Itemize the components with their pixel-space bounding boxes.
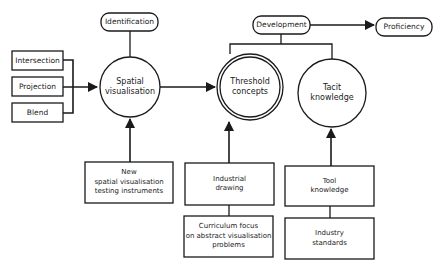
threshold-text-1: Threshold <box>230 77 269 87</box>
tacit-knowledge-label: Tacit knowledge <box>302 78 362 108</box>
development-label: Development <box>253 16 310 34</box>
projection-text: Projection <box>19 82 56 92</box>
curriculum-text-3: problems <box>212 241 245 251</box>
industry-text-2: standards <box>312 239 347 249</box>
industrial-text-2: drawing <box>215 184 243 194</box>
curriculum-text-2: on abstract visualisation <box>186 232 272 242</box>
projection-label: Projection <box>12 77 63 96</box>
intersection-text: Intersection <box>15 56 60 66</box>
tool-knowledge-label: Tool knowledge <box>285 166 374 206</box>
tacit-text-1: Tacit <box>323 83 341 93</box>
intersection-label: Intersection <box>12 51 63 70</box>
tool-text-2: knowledge <box>311 186 349 196</box>
threshold-concepts-label: Threshold concepts <box>220 72 280 102</box>
spatial-visualisation-label: Spatial visualisation <box>100 72 160 102</box>
spatial-text-2: visualisation <box>105 87 155 97</box>
identification-label: Identification <box>101 13 158 31</box>
curriculum-focus-label: Curriculum focus on abstract visualisati… <box>184 216 273 257</box>
threshold-text-2: concepts <box>232 87 268 97</box>
proficiency-label: Proficiency <box>376 18 432 36</box>
proficiency-text: Proficiency <box>384 22 425 32</box>
blend-text: Blend <box>27 108 48 118</box>
new-testing-text-2: spatial visualisation <box>94 178 163 188</box>
new-testing-text-1: New <box>121 168 136 178</box>
identification-text: Identification <box>105 17 154 27</box>
industry-standards-label: Industry standards <box>285 218 374 259</box>
industrial-text-1: Industrial <box>213 175 246 185</box>
tool-text-1: Tool <box>323 177 337 187</box>
curriculum-text-1: Curriculum focus <box>199 222 258 232</box>
tacit-text-2: knowledge <box>310 93 353 103</box>
industrial-drawing-label: Industrial drawing <box>185 163 274 205</box>
new-testing-text-3: testing instruments <box>95 187 164 197</box>
new-testing-label: New spatial visualisation testing instru… <box>85 162 173 203</box>
development-text: Development <box>256 20 307 30</box>
blend-label: Blend <box>12 103 63 122</box>
spatial-text-1: Spatial <box>116 77 144 87</box>
industry-text-1: Industry <box>315 229 344 239</box>
